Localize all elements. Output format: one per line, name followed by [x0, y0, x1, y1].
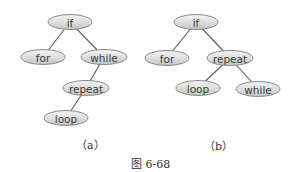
node-label: repeat — [69, 83, 103, 95]
node-label: repeat — [213, 53, 247, 65]
tree-node-for: for — [21, 50, 65, 65]
tree-node-while: while — [81, 50, 127, 65]
node-label: loop — [55, 113, 78, 125]
node-label: if — [193, 17, 200, 29]
node-label: if — [67, 17, 74, 29]
tree-node-repeat: repeat — [63, 81, 109, 96]
tree-diagram: ifforwhilerepeatloopifforrepeatloopwhile — [0, 0, 299, 172]
tree-node-loop: loop — [44, 111, 88, 126]
node-label: for — [36, 52, 51, 64]
node-label: while — [244, 84, 272, 96]
node-label: loop — [187, 83, 210, 95]
tree-b-label: （b） — [204, 137, 233, 153]
tree-node-for: for — [145, 51, 189, 66]
figure-caption: 图 6-68 — [131, 155, 170, 171]
tree-node-while: while — [236, 82, 280, 97]
tree-node-if: if — [48, 15, 92, 30]
tree-node-loop: loop — [176, 81, 220, 96]
edges-layer — [43, 22, 258, 118]
tree-node-if: if — [174, 15, 218, 30]
node-label: for — [160, 53, 175, 65]
node-label: while — [90, 52, 118, 64]
tree-a-label: （a） — [76, 136, 105, 152]
tree-node-repeat: repeat — [207, 51, 253, 66]
